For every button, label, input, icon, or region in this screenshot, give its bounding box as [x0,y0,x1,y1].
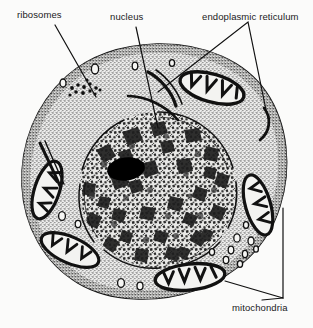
label-nucleus: nucleus [110,11,143,22]
leader-mitochondria-stub [262,298,283,300]
nucleus-structure [79,112,237,268]
label-ribosomes: ribosomes [17,9,62,20]
cell-diagram-figure: ribosomes nucleus endoplasmic reticulum … [0,0,313,328]
label-mitochondria: mitochondria [232,302,288,313]
cell-diagram-svg [0,0,313,328]
label-endoplasmic-reticulum: endoplasmic reticulum [202,11,299,22]
